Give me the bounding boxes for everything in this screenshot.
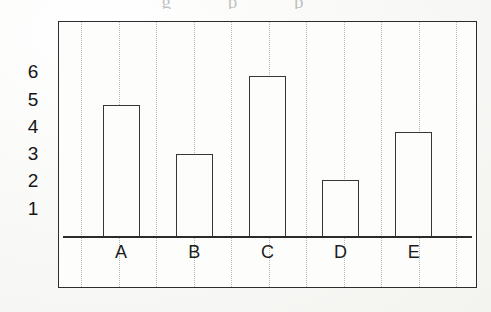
- y-tick-label-2: 2: [22, 171, 44, 190]
- gridline: [156, 22, 158, 287]
- gridline: [231, 22, 233, 287]
- y-tick-label-4: 4: [22, 117, 44, 136]
- category-label-d: D: [321, 242, 361, 263]
- category-label-a: A: [101, 242, 141, 263]
- category-label-c: C: [247, 242, 287, 263]
- category-label-e: E: [394, 242, 434, 263]
- bleed-through-text: g p p: [0, 0, 491, 9]
- plot-area: ABCDE: [59, 22, 476, 287]
- gridline: [456, 22, 458, 287]
- y-tick-label-1: 1: [22, 199, 44, 218]
- y-tick-label-3: 3: [22, 144, 44, 163]
- gridline: [381, 22, 383, 287]
- y-tick-label-5: 5: [22, 90, 44, 109]
- bar-a: [103, 105, 140, 237]
- bar-b: [176, 154, 213, 237]
- bar-c: [249, 76, 286, 237]
- x-axis-line: [63, 236, 472, 238]
- bar-d: [322, 180, 359, 237]
- category-label-b: B: [174, 242, 214, 263]
- gridline: [306, 22, 308, 287]
- bar-e: [395, 132, 432, 237]
- bar-chart-figure: ABCDE: [58, 21, 477, 288]
- y-tick-label-6: 6: [22, 62, 44, 81]
- gridline: [81, 22, 83, 287]
